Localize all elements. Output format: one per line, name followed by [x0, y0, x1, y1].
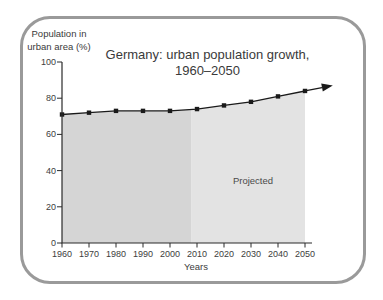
data-marker — [168, 109, 172, 113]
x-tick-label: 1960 — [48, 249, 76, 259]
trend-arrow-shaft — [305, 88, 322, 91]
y-tick-label: 0 — [22, 238, 56, 248]
x-tick-label: 1980 — [102, 249, 130, 259]
y-tick-label: 40 — [22, 166, 56, 176]
y-axis-title-line-1: Population in — [27, 28, 91, 41]
y-axis-title: Population in urban area (%) — [27, 28, 91, 53]
projected-annotation: Projected — [213, 175, 293, 186]
data-marker — [114, 109, 118, 113]
data-marker — [249, 100, 253, 104]
y-tick-label: 100 — [22, 57, 56, 67]
x-axis-title: Years — [146, 261, 246, 272]
data-marker — [303, 89, 307, 93]
data-marker — [141, 109, 145, 113]
chart-title: Germany: urban population growth, 1960–2… — [100, 47, 315, 79]
data-marker — [222, 103, 226, 107]
data-marker — [195, 107, 199, 111]
x-tick-label: 2010 — [183, 249, 211, 259]
figure-canvas: Population in urban area (%) Germany: ur… — [0, 0, 383, 300]
x-tick-label: 2040 — [264, 249, 292, 259]
data-marker — [87, 110, 91, 114]
projected-area — [192, 91, 305, 243]
historical-area — [62, 109, 192, 243]
y-tick-label: 20 — [22, 202, 56, 212]
y-tick-label: 80 — [22, 93, 56, 103]
chart-title-line-1: Germany: urban population growth, — [100, 47, 315, 63]
trend-arrow-head — [321, 84, 333, 92]
x-tick-label: 1970 — [75, 249, 103, 259]
x-tick-label: 2020 — [210, 249, 238, 259]
y-tick-label: 60 — [22, 129, 56, 139]
x-tick-label: 2000 — [156, 249, 184, 259]
y-axis-title-line-2: urban area (%) — [27, 41, 91, 54]
x-tick-label: 1990 — [129, 249, 157, 259]
chart-title-line-2: 1960–2050 — [100, 63, 315, 79]
x-tick-label: 2030 — [237, 249, 265, 259]
x-tick-label: 2050 — [291, 249, 319, 259]
data-marker — [276, 94, 280, 98]
